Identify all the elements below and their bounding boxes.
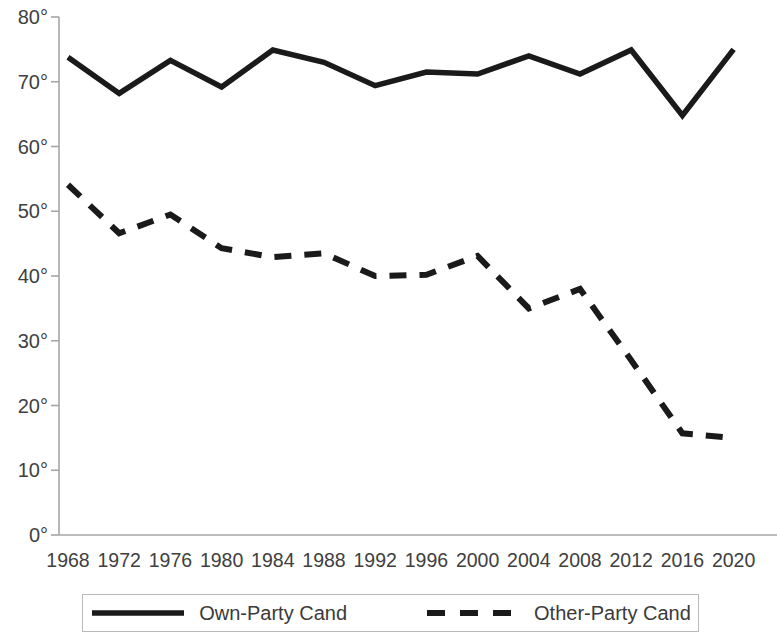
x-tick-label: 1980 bbox=[200, 548, 243, 572]
x-tick-label: 2004 bbox=[507, 548, 550, 572]
x-tick-label: 2016 bbox=[661, 548, 704, 572]
x-tick-label: 1968 bbox=[46, 548, 89, 572]
x-tick-label: 1976 bbox=[149, 548, 192, 572]
x-tick-label: 1988 bbox=[302, 548, 345, 572]
legend-label-other-party: Other-Party Cand bbox=[534, 603, 691, 623]
y-tick-label: 60° bbox=[0, 137, 48, 157]
x-tick-label: 2000 bbox=[456, 548, 499, 572]
y-tick-label: 40° bbox=[0, 266, 48, 286]
x-tick-label: 1984 bbox=[251, 548, 294, 572]
y-tick-label: 0° bbox=[0, 525, 48, 545]
y-tick-label: 30° bbox=[0, 331, 48, 351]
x-tick-label: 2008 bbox=[558, 548, 601, 572]
y-tick-label: 80° bbox=[0, 7, 48, 27]
x-tick-label: 1992 bbox=[353, 548, 396, 572]
plot-canvas bbox=[0, 0, 777, 540]
line-chart: 0°10°20°30°40°50°60°70°80° 1968197219761… bbox=[0, 0, 777, 632]
legend-swatch-solid bbox=[90, 606, 186, 620]
y-tick-label: 70° bbox=[0, 72, 48, 92]
series-line-own-party bbox=[68, 49, 734, 115]
y-tick-label: 10° bbox=[0, 460, 48, 480]
legend-label-own-party: Own-Party Cand bbox=[199, 603, 347, 623]
plot-area: 0°10°20°30°40°50°60°70°80° 1968197219761… bbox=[0, 0, 777, 540]
y-tick-label: 20° bbox=[0, 396, 48, 416]
x-tick-label: 2012 bbox=[609, 548, 652, 572]
series-line-other-party bbox=[68, 185, 734, 438]
legend-item-own-party: Own-Party Cand bbox=[90, 603, 347, 623]
chart-legend: Own-Party Cand Other-Party Cand bbox=[82, 594, 699, 632]
x-axis-tick-labels: 1968197219761980198419881992199620002004… bbox=[0, 548, 777, 580]
x-tick-label: 1972 bbox=[97, 548, 140, 572]
x-tick-label: 2020 bbox=[712, 548, 755, 572]
y-axis-tick-labels: 0°10°20°30°40°50°60°70°80° bbox=[0, 0, 48, 540]
legend-swatch-dashed bbox=[425, 606, 521, 620]
y-tick-label: 50° bbox=[0, 201, 48, 221]
x-tick-label: 1996 bbox=[405, 548, 448, 572]
legend-item-other-party: Other-Party Cand bbox=[425, 603, 691, 623]
